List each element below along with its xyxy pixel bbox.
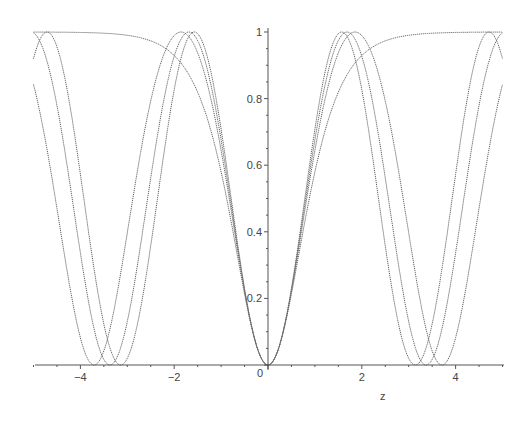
y-tick-label: 0.4 <box>247 226 262 238</box>
y-tick-label: 0.2 <box>247 292 262 304</box>
y-tick-label: 0.6 <box>247 159 262 171</box>
x-ticks: −4−224 <box>34 365 503 383</box>
chart: −4−224 0.20.40.60.81 0 z <box>0 0 532 423</box>
y-tick-label: 1 <box>256 26 262 38</box>
x-tick-label: −4 <box>74 371 87 383</box>
y-ticks: 0.20.40.60.81 <box>247 26 268 365</box>
origin-label: 0 <box>257 367 263 379</box>
x-tick-label: −2 <box>168 371 181 383</box>
x-tick-label: 4 <box>453 371 459 383</box>
x-tick-label: 2 <box>359 371 365 383</box>
x-axis-label: z <box>380 390 386 402</box>
y-tick-label: 0.8 <box>247 93 262 105</box>
